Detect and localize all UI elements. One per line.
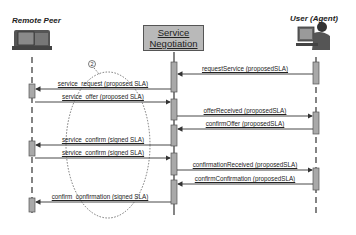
actor-label-user-agent: User (Agent): [290, 14, 338, 23]
svg-text:2: 2: [90, 61, 93, 67]
server-computer-icon: [12, 30, 52, 50]
message-label: requestService (proposedSLA): [202, 65, 288, 72]
user-at-computer-icon: [296, 22, 330, 50]
service-negotiation-line2: Negotiation: [144, 38, 203, 49]
message-label: service_request (proposed SLA): [58, 80, 148, 87]
message-label: confirmationReceived (proposedSLA): [193, 161, 298, 168]
message-label: service_offer (proposed SLA): [62, 93, 144, 100]
message-label: confirm_confirmation (signed SLA): [52, 193, 149, 200]
service-negotiation-line1: Service: [144, 27, 203, 38]
service-negotiation-box: Service Negotiation: [143, 25, 204, 51]
message-label: confirmOffer (proposedSLA): [206, 120, 285, 127]
message-label: service_confirm (signed SLA): [62, 136, 144, 143]
step-marker-2: 2: [89, 61, 96, 68]
message-label: confirmConfirmation (proposedSLA): [195, 175, 295, 182]
message-label: service_confirm (signed SLA): [62, 149, 144, 156]
actor-label-remote-peer: Remote Peer: [12, 16, 61, 25]
message-label: offerReceived (proposedSLA): [204, 107, 287, 114]
